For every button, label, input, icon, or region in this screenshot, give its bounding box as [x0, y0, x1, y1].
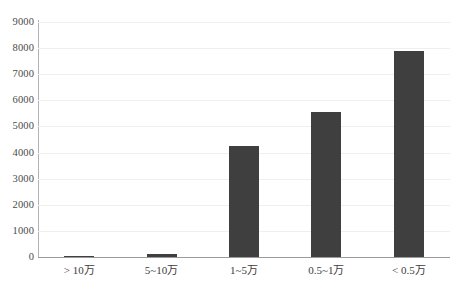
y-axis-tick-label: 2000	[0, 200, 34, 211]
x-axis-tick-label: 5~10万	[120, 264, 202, 277]
bar[interactable]	[311, 112, 341, 257]
y-axis-tick-labels: 0100020003000400050006000700080009000	[0, 0, 34, 295]
gridline	[38, 22, 450, 23]
y-axis-tick-label: 5000	[0, 121, 34, 132]
x-axis-baseline	[38, 257, 450, 258]
gridline	[38, 100, 450, 101]
y-axis-tick-label: 0	[0, 252, 34, 263]
y-axis-tick-label: 1000	[0, 226, 34, 237]
bar[interactable]	[394, 51, 424, 257]
gridline	[38, 126, 450, 127]
bar[interactable]	[64, 256, 94, 257]
x-axis-tick-label: < 0.5万	[368, 264, 450, 277]
y-axis-tick-label: 6000	[0, 95, 34, 106]
y-axis-tick-label: 7000	[0, 69, 34, 80]
x-axis-tick-labels: > 10万5~10万1~5万0.5~1万< 0.5万	[38, 264, 450, 288]
x-axis-tick-label: 0.5~1万	[285, 264, 367, 277]
bar-chart: 0100020003000400050006000700080009000 > …	[0, 0, 457, 295]
y-axis-tick-label: 4000	[0, 148, 34, 159]
gridline	[38, 48, 450, 49]
bar[interactable]	[147, 254, 177, 257]
y-axis-tick-label: 8000	[0, 43, 34, 54]
plot-area	[38, 22, 450, 257]
x-axis-tick-label: 1~5万	[203, 264, 285, 277]
bar[interactable]	[229, 146, 259, 257]
gridline	[38, 74, 450, 75]
y-axis-tick-label: 3000	[0, 174, 34, 185]
x-axis-tick-label: > 10万	[38, 264, 120, 277]
y-axis-tick-label: 9000	[0, 17, 34, 28]
